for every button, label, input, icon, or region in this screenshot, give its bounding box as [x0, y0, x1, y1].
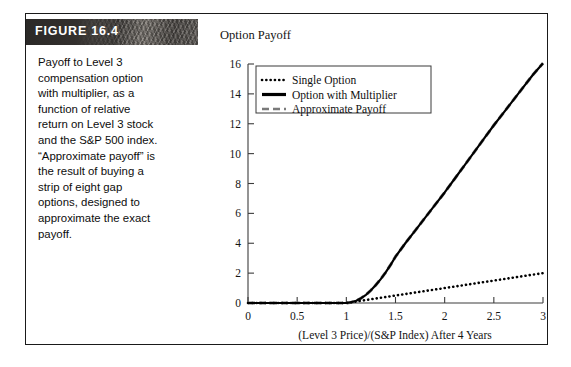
chart-x-axis-title: (Level 3 Price)/(S&P Index) After 4 Year…: [298, 329, 492, 342]
figure-caption-column: FIGURE 16.4 Payoff to Level 3 compensati…: [26, 14, 198, 346]
x-tick-label: 0.5: [290, 310, 305, 322]
y-tick-label: 10: [230, 148, 242, 160]
legend-label: Single Option: [292, 74, 356, 87]
figure-caption-text: Payoff to Level 3 compensation option wi…: [38, 55, 188, 242]
chart-panel: Option Payoff 0246810121416 00.511.522.5…: [198, 14, 549, 346]
x-tick-label: 2: [442, 310, 448, 322]
x-tick-label: 0: [245, 310, 251, 322]
x-tick-label: 1.5: [388, 310, 403, 322]
legend-label: Option with Multiplier: [292, 89, 397, 102]
y-tick-label: 6: [235, 207, 241, 219]
x-tick-label: 2.5: [487, 310, 502, 322]
x-axis-ticks: 00.511.522.53: [245, 297, 546, 322]
figure-frame: FIGURE 16.4 Payoff to Level 3 compensati…: [25, 13, 548, 345]
y-axis-ticks: 0246810121416: [230, 58, 255, 309]
chart-legend: Single OptionOption with MultiplierAppro…: [256, 66, 431, 116]
figure-number-banner: FIGURE 16.4: [26, 19, 198, 45]
legend-label: Approximate Payoff: [292, 103, 386, 116]
y-tick-label: 14: [230, 88, 242, 100]
y-tick-label: 16: [230, 58, 242, 70]
figure-number-label: FIGURE 16.4: [35, 24, 119, 38]
y-tick-label: 2: [235, 267, 241, 279]
y-tick-label: 0: [235, 297, 241, 309]
y-tick-label: 12: [230, 118, 242, 130]
x-tick-label: 1: [343, 310, 349, 322]
y-tick-label: 4: [235, 237, 241, 249]
option-payoff-chart: 0246810121416 00.511.522.53 Single Optio…: [198, 14, 549, 346]
x-tick-label: 3: [540, 310, 546, 322]
y-tick-label: 8: [235, 178, 241, 190]
